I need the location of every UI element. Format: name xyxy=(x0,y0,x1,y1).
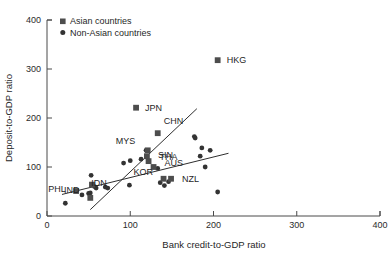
y-tick-label: 300 xyxy=(26,64,41,74)
y-tick-label: 0 xyxy=(36,211,41,221)
data-point-non-asian xyxy=(127,183,132,188)
point-label-idn: IDN xyxy=(91,178,107,188)
data-point-non-asian xyxy=(215,190,220,195)
x-tick-label: 100 xyxy=(123,220,138,230)
data-point-non-asian xyxy=(162,183,167,188)
y-tick-label: 400 xyxy=(26,15,41,25)
x-tick-label: 300 xyxy=(289,220,304,230)
data-point-asian-nzl xyxy=(168,176,174,182)
point-label-phl: PHL xyxy=(48,184,66,194)
data-point-asian-jpn xyxy=(133,105,139,111)
data-point-non-asian xyxy=(128,158,133,163)
legend-label-asian: Asian countries xyxy=(70,16,132,26)
x-tick-labels: 0100200300400 xyxy=(44,220,387,230)
point-label-nzl: NZL xyxy=(182,174,199,184)
data-point-non-asian xyxy=(80,193,85,198)
x-tick-label: 200 xyxy=(206,220,221,230)
point-label-aus: AUS xyxy=(165,158,184,168)
chart-svg: 0100200300400 0100200300400 HKGJPNCHNMYS… xyxy=(0,0,392,254)
point-labels-group: HKGJPNCHNMYSSINTHAAUSKORNZLINDPHLIDN xyxy=(48,55,246,194)
legend-label-non-asian: Non-Asian countries xyxy=(70,28,152,38)
x-tick-marks xyxy=(47,211,380,216)
y-tick-label: 200 xyxy=(26,113,41,123)
data-point-non-asian xyxy=(139,157,144,162)
point-label-jpn: JPN xyxy=(145,103,162,113)
x-tick-label: 0 xyxy=(44,220,49,230)
data-point-asian-hkg xyxy=(215,57,221,63)
data-point-non-asian xyxy=(121,161,126,166)
y-tick-labels: 0100200300400 xyxy=(26,15,41,221)
data-point-non-asian xyxy=(208,148,213,153)
point-label-kor: KOR xyxy=(134,167,154,177)
data-point-non-asian xyxy=(63,201,68,206)
x-tick-label: 400 xyxy=(372,220,387,230)
legend-square-marker xyxy=(60,19,66,25)
scatter-chart: 0100200300400 0100200300400 HKGJPNCHNMYS… xyxy=(0,0,392,254)
data-point-asian-kor xyxy=(161,176,167,182)
data-point-non-asian xyxy=(193,136,198,141)
data-point-asian-chn xyxy=(155,130,161,136)
data-point-non-asian xyxy=(199,145,204,150)
y-tick-label: 100 xyxy=(26,162,41,172)
y-axis-title: Deposit-to-GDP ratio xyxy=(3,74,14,162)
data-point-non-asian xyxy=(88,191,93,196)
data-point-asian-idn xyxy=(87,195,93,201)
data-point-non-asian xyxy=(198,154,203,159)
legend-circle-marker xyxy=(60,30,65,35)
point-label-mys: MYS xyxy=(116,136,136,146)
x-axis-title: Bank credit-to-GDP ratio xyxy=(162,239,265,250)
point-label-ind: IND xyxy=(64,185,80,195)
legend: Asian countries Non-Asian countries xyxy=(60,16,152,38)
point-label-chn: CHN xyxy=(164,116,184,126)
data-point-asian-mys xyxy=(145,147,151,153)
data-point-asian-tha xyxy=(146,158,152,164)
point-label-hkg: HKG xyxy=(227,55,247,65)
data-point-non-asian xyxy=(203,165,208,170)
